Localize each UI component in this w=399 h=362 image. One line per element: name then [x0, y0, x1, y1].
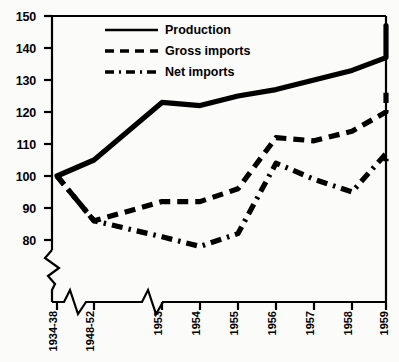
x-axis — [52, 290, 386, 314]
y-axis — [45, 16, 59, 302]
series-line-net-imports — [57, 154, 386, 247]
x-axis-ticks — [57, 302, 386, 310]
y-axis-ticks — [44, 16, 52, 240]
series-line-production — [57, 26, 386, 176]
chart-container: 150 140 130 120 110 100 90 80 1934-38 19… — [0, 0, 399, 362]
chart-plot-area — [0, 0, 399, 362]
series-line-gross-imports — [57, 93, 386, 221]
axis-frame — [52, 16, 386, 302]
legend-swatches — [105, 30, 158, 72]
